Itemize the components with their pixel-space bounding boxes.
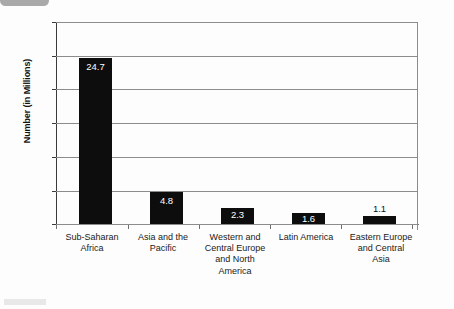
x-category-label-sub-saharan-africa: Sub-Saharan Africa bbox=[52, 232, 132, 254]
bar-sub-saharan-africa[interactable]: 24.7 bbox=[79, 58, 112, 224]
bar-eastern-europe-and-central-asia[interactable]: 1.1 bbox=[363, 216, 396, 224]
x-tick-mark-2 bbox=[199, 225, 200, 229]
x-category-line: and North bbox=[190, 254, 280, 265]
y-tick-mark-20 bbox=[52, 89, 56, 90]
plot-area: 30 25 20 15 10 5 0 24.7 4.8 2.3 1.6 1.1 bbox=[56, 22, 418, 224]
x-tick-mark-0 bbox=[56, 225, 57, 229]
y-tick-mark-30 bbox=[52, 22, 56, 23]
bar-chart-figure: Number (in Millions) 30 25 20 15 10 5 0 … bbox=[0, 0, 454, 309]
gridline-25 bbox=[56, 56, 418, 57]
x-category-line: Sub-Saharan bbox=[52, 232, 132, 243]
y-axis-title: Number (in Millions) bbox=[22, 36, 32, 166]
bar-value-label-3: 1.6 bbox=[292, 213, 325, 224]
x-category-line: and Central bbox=[335, 243, 427, 254]
x-tick-mark-1 bbox=[128, 225, 129, 229]
x-category-line: Eastern Europe bbox=[335, 232, 427, 243]
x-tick-mark-4 bbox=[341, 225, 342, 229]
y-tick-mark-25 bbox=[52, 56, 56, 57]
x-category-line: Central Europe bbox=[190, 243, 280, 254]
x-category-line: Asia bbox=[335, 254, 427, 265]
y-tick-mark-10 bbox=[52, 157, 56, 158]
x-category-line: America bbox=[190, 266, 280, 277]
x-category-label-eastern-europe-and-central-asia: Eastern Europe and Central Asia bbox=[335, 232, 427, 266]
bar-value-label-0: 24.7 bbox=[79, 61, 112, 72]
bar-value-label-1: 4.8 bbox=[150, 195, 183, 206]
bar-asia-and-the-pacific[interactable]: 4.8 bbox=[150, 192, 183, 224]
bar-western-and-central-europe-and-north-america[interactable]: 2.3 bbox=[221, 208, 254, 224]
bar-value-label-4: 1.1 bbox=[363, 203, 396, 214]
x-tick-mark-3 bbox=[270, 225, 271, 229]
gridline-20-dup bbox=[56, 22, 418, 23]
x-category-line: Africa bbox=[52, 243, 132, 254]
x-tick-mark-5 bbox=[412, 225, 413, 229]
bar-latin-america[interactable]: 1.6 bbox=[292, 213, 325, 224]
plot-frame-right-border bbox=[417, 22, 418, 230]
y-tick-mark-15 bbox=[52, 123, 56, 124]
y-tick-mark-5 bbox=[52, 191, 56, 192]
bar-value-label-2: 2.3 bbox=[221, 209, 254, 220]
gridline-0 bbox=[56, 224, 418, 225]
